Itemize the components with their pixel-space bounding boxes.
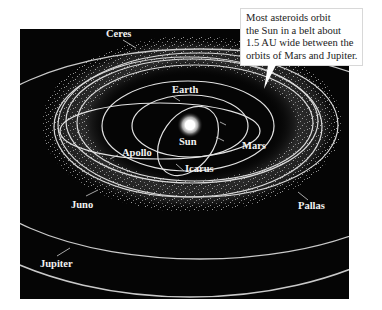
callout-pointer bbox=[0, 0, 382, 310]
